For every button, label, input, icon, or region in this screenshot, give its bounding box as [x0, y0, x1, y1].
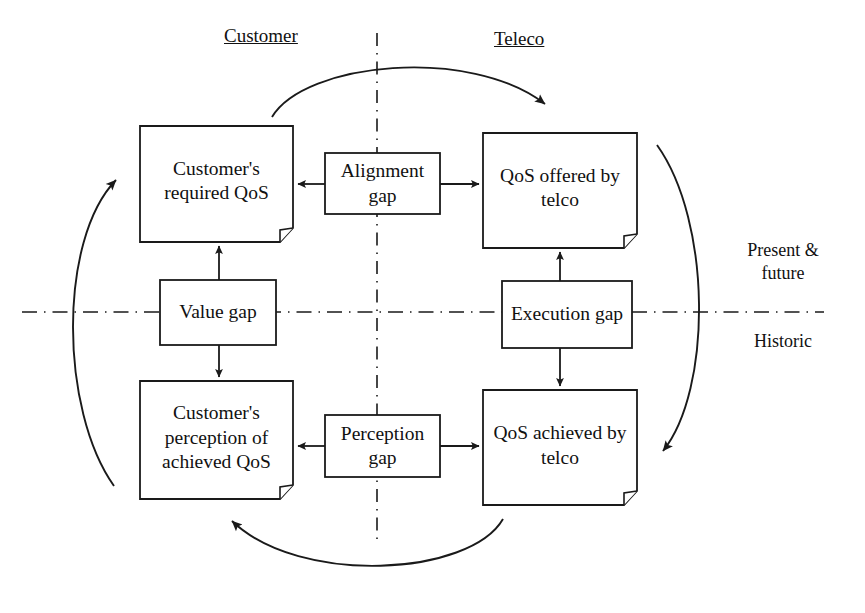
box-label-customer-required-qos: Customer's required QoS	[140, 126, 293, 236]
arc-right-offered-to-achieved	[657, 145, 699, 451]
gap-label-execution-gap: Execution gap	[502, 281, 632, 348]
gap-label-perception-gap: Perception gap	[325, 415, 440, 477]
arc-top-customer-to-telco	[272, 67, 545, 117]
arc-left-perception-to-required	[73, 180, 116, 486]
box-label-qos-achieved-by-telco: QoS achieved by telco	[483, 390, 637, 501]
header-label-teleco: Teleco	[494, 28, 544, 50]
box-label-customer-perception-of-achieved-qos: Customer's perception of achieved QoS	[140, 381, 293, 495]
box-label-qos-offered-by-telco: QoS offered by telco	[483, 133, 637, 243]
arc-bottom-achieved-to-perception	[232, 519, 503, 566]
diagram-vector-layer	[0, 0, 865, 613]
header-label-customer: Customer	[224, 25, 298, 47]
diagram-canvas: Customer Teleco Customer's required QoS …	[0, 0, 865, 613]
gap-label-value-gap: Value gap	[160, 280, 276, 345]
side-label-historic: Historic	[718, 330, 848, 353]
gap-label-alignment-gap: Alignment gap	[325, 153, 440, 214]
side-label-present-future: Present & future	[718, 239, 848, 284]
